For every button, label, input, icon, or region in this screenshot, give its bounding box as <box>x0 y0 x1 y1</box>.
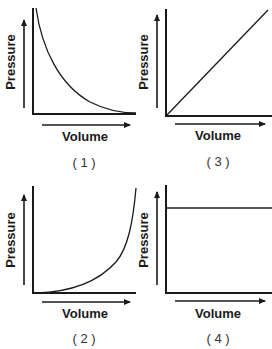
x-axis-label: Volume <box>195 306 241 321</box>
y-axis-label: Pressure <box>3 34 18 90</box>
panel-1: Pressure Volume ( 1 ) <box>3 8 136 170</box>
x-axis-label: Volume <box>62 129 108 144</box>
panel-caption: ( 2 ) <box>72 331 95 346</box>
panel-caption: ( 3 ) <box>206 154 229 169</box>
panel-4: Pressure Volume ( 4 ) <box>136 185 272 346</box>
pv-graphs-figure: Pressure Volume ( 1 ) Pressure Volume ( … <box>0 0 272 349</box>
x-axis-label: Volume <box>195 128 241 143</box>
panel-2: Pressure Volume ( 2 ) <box>3 186 136 346</box>
panel-caption: ( 1 ) <box>72 155 95 170</box>
exponential-curve <box>36 188 136 293</box>
linear-line <box>166 10 268 116</box>
x-axis-label: Volume <box>62 306 108 321</box>
panel-3: Pressure Volume ( 3 ) <box>136 9 272 169</box>
y-axis-label: Pressure <box>136 34 151 90</box>
y-axis-label: Pressure <box>136 212 151 268</box>
y-axis-label: Pressure <box>3 212 18 268</box>
panel-caption: ( 4 ) <box>206 331 229 346</box>
inverse-curve <box>36 8 136 113</box>
